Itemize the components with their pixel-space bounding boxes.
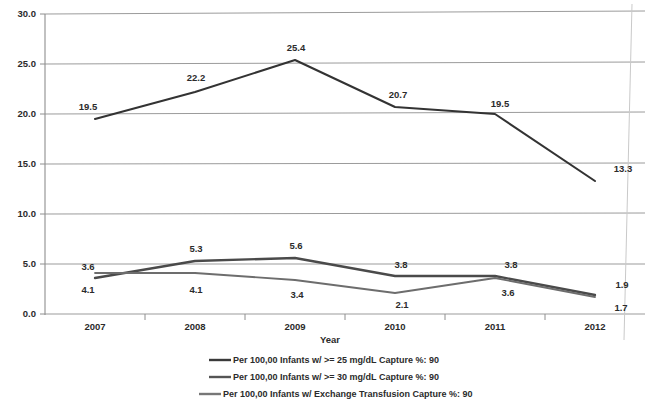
gridline-25	[45, 62, 645, 64]
data-labels-series-1: 19.5 22.2 25.4 20.7 19.5 13.3	[79, 42, 633, 174]
x-tick-label-2008: 2008	[184, 321, 205, 332]
gridline-10	[45, 213, 645, 214]
gridline-20	[45, 112, 645, 114]
data-label-s2-2011: 3.8	[504, 259, 517, 270]
y-tick-label-5: 5.0	[23, 258, 36, 269]
legend-label-1: Per 100,00 Infants w/ >= 30 mg/dL Captur…	[233, 372, 439, 382]
x-tick-label-2007: 2007	[84, 321, 105, 332]
data-labels-series-2: 3.6 5.3 5.6 3.8 3.8 1.9	[81, 240, 628, 290]
chart-legend: Per 100,00 Infants w/ >= 25 mg/dL Captur…	[199, 355, 473, 399]
x-axis: 2007 2008 2009 2010 2011 2012 Year	[84, 314, 605, 345]
data-label-s1-2010: 20.7	[389, 89, 408, 100]
data-label-s2-2009: 5.6	[289, 240, 302, 251]
data-label-s3-2011: 3.6	[501, 287, 514, 298]
data-label-s1-2009: 25.4	[287, 42, 306, 53]
data-label-s3-2007: 4.1	[81, 284, 95, 295]
series-line-exchange-transfusion	[95, 273, 595, 297]
y-tick-label-20: 20.0	[18, 108, 37, 119]
legend-label-0: Per 100,00 Infants w/ >= 25 mg/dL Captur…	[233, 355, 439, 365]
y-tick-label-0: 0.0	[23, 308, 36, 319]
legend-item-0[interactable]: Per 100,00 Infants w/ >= 25 mg/dL Captur…	[209, 355, 439, 365]
data-label-s1-2012: 13.3	[614, 163, 633, 174]
data-label-s3-2010: 2.1	[395, 299, 409, 310]
data-label-s2-2007: 3.6	[81, 261, 94, 272]
y-axis: 30.0 25.0 20.0 15.0 10.0 5.0 0.0	[18, 8, 46, 319]
y-tick-label-15: 15.0	[18, 158, 37, 169]
x-tick-label-2011: 2011	[485, 321, 506, 332]
y-tick-label-30: 30.0	[18, 8, 37, 19]
data-label-s3-2008: 4.1	[189, 284, 203, 295]
series-3-path	[95, 273, 595, 297]
legend-item-2[interactable]: Per 100,00 Infants w/ Exchange Transfusi…	[199, 389, 473, 399]
y-tick-label-25: 25.0	[18, 58, 37, 69]
data-label-s2-2008: 5.3	[189, 243, 202, 254]
gridlines	[45, 11, 645, 314]
data-label-s2-2010: 3.8	[394, 259, 407, 270]
x-tick-label-2009: 2009	[284, 321, 305, 332]
data-label-s3-2012: 1.7	[614, 302, 627, 313]
data-label-s1-2007: 19.5	[79, 101, 98, 112]
legend-item-1[interactable]: Per 100,00 Infants w/ >= 30 mg/dL Captur…	[209, 372, 439, 382]
x-tick-label-2010: 2010	[384, 321, 405, 332]
data-label-s3-2009: 3.4	[290, 289, 304, 300]
x-axis-title: Year	[320, 334, 340, 345]
data-label-s1-2011: 19.5	[491, 98, 510, 109]
data-label-s2-2012: 1.9	[615, 279, 628, 290]
gridline-30	[45, 11, 645, 14]
chart-canvas: 30.0 25.0 20.0 15.0 10.0 5.0 0.0 2007 20…	[0, 0, 660, 406]
x-tick-label-2012: 2012	[584, 321, 605, 332]
gridline-15	[45, 163, 645, 164]
legend-label-2: Per 100,00 Infants w/ Exchange Transfusi…	[223, 389, 473, 399]
line-chart: 30.0 25.0 20.0 15.0 10.0 5.0 0.0 2007 20…	[0, 0, 660, 406]
data-label-s1-2008: 22.2	[187, 72, 206, 83]
y-tick-label-10: 10.0	[18, 208, 37, 219]
